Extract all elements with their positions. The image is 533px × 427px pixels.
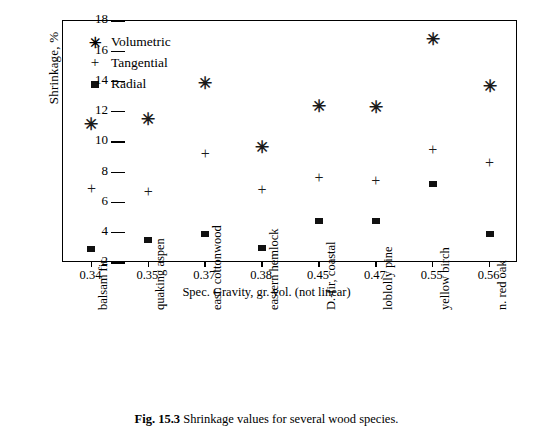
marker-volumetric-0.56: ✳ <box>483 78 497 95</box>
x-tick-0.35 <box>148 261 149 267</box>
species-label-n-red-oak: n. red oak <box>495 260 510 310</box>
caption-number: Fig. 15.3 <box>135 412 180 426</box>
species-label-loblolly-pine: loblolly pine <box>381 246 396 310</box>
marker-tangential-0.47: + <box>371 173 380 189</box>
marker-radial-0.55 <box>429 181 437 187</box>
x-tick-0.37 <box>204 261 205 267</box>
y-tick-10: 10 <box>111 141 125 142</box>
marker-radial-0.56 <box>486 231 494 237</box>
y-tick-label-16: 16 <box>95 42 108 58</box>
marker-radial-0.38 <box>258 245 266 251</box>
y-tick-8: 8 <box>111 172 125 173</box>
marker-volumetric-0.55: ✳ <box>426 31 440 48</box>
marker-tangential-0.38: + <box>258 182 267 198</box>
plot-area: ✳ Volumetric + Tangential Radial 2468101… <box>62 20 517 262</box>
y-tick-label-8: 8 <box>102 163 109 179</box>
species-label-quaking-aspen: quaking aspen <box>153 238 168 310</box>
y-axis-title: Shrinkage, % <box>46 0 62 158</box>
legend-label-volumetric: Volumetric <box>111 34 171 50</box>
x-tick-label-0.38: 0.38 <box>231 268 291 283</box>
x-tick-label-0.34: 0.34 <box>60 268 120 283</box>
marker-tangential-0.55: + <box>428 142 437 158</box>
x-tick-0.47 <box>375 261 376 267</box>
marker-tangential-0.56: + <box>485 155 494 171</box>
caption-text: Shrinkage values for several wood specie… <box>183 412 398 426</box>
y-tick-6: 6 <box>111 202 125 203</box>
marker-tangential-0.37: + <box>201 146 210 162</box>
marker-volumetric-0.38: ✳ <box>255 138 269 155</box>
marker-radial-0.34 <box>87 246 95 252</box>
y-tick-label-14: 14 <box>95 72 108 88</box>
marker-volumetric-0.37: ✳ <box>198 75 212 92</box>
y-tick-2: 2 <box>111 262 125 263</box>
species-label-balsam-fir: balsam fir <box>96 260 111 310</box>
y-tick-16: 16 <box>111 51 125 52</box>
x-tick-label-0.37: 0.37 <box>174 268 234 283</box>
legend-label-tangential: Tangential <box>111 55 168 71</box>
x-tick-label-0.35: 0.35 <box>117 268 177 283</box>
marker-volumetric-0.35: ✳ <box>141 111 155 128</box>
species-label-east-cottonwood: east. cottonwood <box>210 225 225 310</box>
marker-radial-0.47 <box>372 218 380 224</box>
marker-volumetric-0.34: ✳ <box>84 115 98 132</box>
x-tick-0.45 <box>318 261 319 267</box>
y-tick-18: 18 <box>111 20 125 21</box>
y-tick-4: 4 <box>111 232 125 233</box>
y-tick-label-10: 10 <box>95 132 108 148</box>
marker-tangential-0.34: + <box>87 181 96 197</box>
marker-volumetric-0.45: ✳ <box>312 97 326 114</box>
marker-radial-0.45 <box>315 218 323 224</box>
marker-radial-0.35 <box>144 237 152 243</box>
y-tick-12: 12 <box>111 111 125 112</box>
species-label-d-fir-coastal: D.-fir, coastal <box>324 241 339 310</box>
species-label-eastern-hemlock: eastern hemlock <box>267 228 282 310</box>
marker-volumetric-0.47: ✳ <box>369 99 383 116</box>
x-tick-0.55 <box>432 261 433 267</box>
marker-radial-0.37 <box>201 231 209 237</box>
x-tick-0.56 <box>489 261 490 267</box>
y-tick-label-18: 18 <box>95 11 108 27</box>
marker-tangential-0.45: + <box>314 170 323 186</box>
x-tick-0.38 <box>261 261 262 267</box>
y-tick-label-6: 6 <box>102 193 109 209</box>
figure-caption: Fig. 15.3 Shrinkage values for several w… <box>0 412 533 427</box>
y-tick-14: 14 <box>111 81 125 82</box>
x-tick-0.34 <box>91 261 92 267</box>
species-label-yellow-birch: yellow birch <box>438 247 453 310</box>
y-tick-label-4: 4 <box>102 223 109 239</box>
legend-label-radial: Radial <box>111 76 146 92</box>
marker-tangential-0.35: + <box>144 184 153 200</box>
